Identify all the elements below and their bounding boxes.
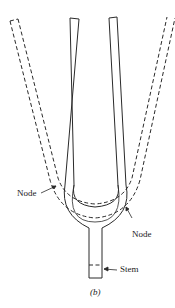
fork-drawing	[0, 0, 175, 308]
figure-caption: (b)	[90, 287, 101, 297]
stem-label: Stem	[120, 264, 139, 274]
node-label-left: Node	[17, 188, 37, 198]
fork-dashed-top-left	[10, 19, 18, 21]
tuning-fork-diagram: Node Node Stem (b)	[0, 0, 175, 308]
fork-solid-outer	[64, 17, 127, 278]
fork-solid-inner	[72, 185, 119, 222]
node-label-right: Node	[132, 229, 152, 239]
fork-dashed-left-inner	[18, 17, 167, 204]
